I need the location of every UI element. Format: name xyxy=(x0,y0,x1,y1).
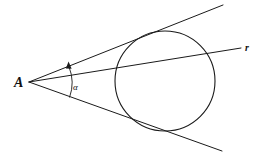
upper-tangent-line xyxy=(29,5,223,82)
circle-shape xyxy=(115,31,215,131)
label-line-r: r xyxy=(245,42,249,53)
lower-tangent-line xyxy=(29,82,222,151)
secant-line-r xyxy=(29,48,241,82)
label-point-a: A xyxy=(13,75,23,90)
figure-canvas: A r α xyxy=(0,0,261,157)
geometry-figure: A r α xyxy=(0,0,261,157)
label-angle-alpha: α xyxy=(73,82,78,92)
angle-arc-alpha xyxy=(69,67,72,98)
